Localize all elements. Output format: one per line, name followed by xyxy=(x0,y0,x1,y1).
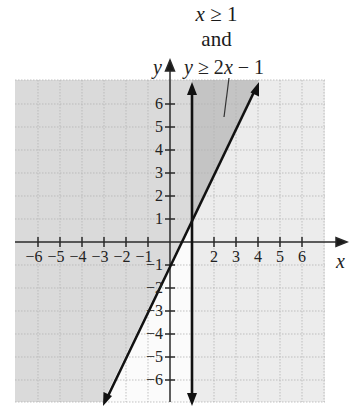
svg-text:6: 6 xyxy=(155,95,163,112)
svg-text:5: 5 xyxy=(155,118,163,135)
svg-text:−3: −3 xyxy=(91,248,108,265)
y-axis-label: y xyxy=(151,56,162,79)
coordinate-plane: −6 −5 −4 −3 −2 −1 2 3 4 5 6 6 5 4 3 2 1 … xyxy=(0,0,353,416)
svg-text:4: 4 xyxy=(155,141,163,158)
svg-text:6: 6 xyxy=(298,248,306,265)
svg-text:−5: −5 xyxy=(47,248,64,265)
svg-text:−4: −4 xyxy=(69,248,86,265)
svg-text:−6: −6 xyxy=(25,248,42,265)
x-axis-label: x xyxy=(335,250,345,272)
svg-text:4: 4 xyxy=(254,248,262,265)
svg-text:2: 2 xyxy=(210,248,218,265)
svg-text:3: 3 xyxy=(232,248,240,265)
svg-text:−3: −3 xyxy=(146,302,163,319)
svg-text:2: 2 xyxy=(155,187,163,204)
svg-text:5: 5 xyxy=(276,248,284,265)
y-axis-arrow-icon xyxy=(166,60,175,71)
svg-text:−2: −2 xyxy=(146,279,163,296)
x-axis-arrow-icon xyxy=(336,238,347,247)
svg-text:−1: −1 xyxy=(146,256,163,273)
svg-text:−5: −5 xyxy=(146,348,163,365)
svg-text:3: 3 xyxy=(155,164,163,181)
svg-text:−6: −6 xyxy=(146,371,163,388)
svg-text:−4: −4 xyxy=(146,325,163,342)
svg-text:1: 1 xyxy=(155,210,163,227)
chart-title-line-3: y ≥ 2x − 1 xyxy=(182,56,264,79)
svg-text:−2: −2 xyxy=(113,248,130,265)
